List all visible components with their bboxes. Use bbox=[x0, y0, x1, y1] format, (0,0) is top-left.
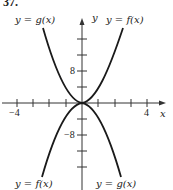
label-g-top-left: y = g(x) bbox=[15, 14, 55, 25]
graph bbox=[0, 0, 173, 190]
tick-label-x-4: 4 bbox=[144, 107, 149, 118]
label-y-axis: y bbox=[92, 12, 98, 23]
label-f-top-right: y = f(x) bbox=[106, 14, 144, 25]
y-axis-arrow-icon bbox=[80, 18, 85, 25]
label-f-bottom-left: y = f(x) bbox=[15, 178, 53, 189]
tick-label-y-neg8: −8 bbox=[64, 129, 75, 140]
label-x-axis: x bbox=[160, 108, 166, 119]
tick-label-y-8: 8 bbox=[70, 65, 75, 76]
x-axis-arrow-icon bbox=[159, 101, 166, 106]
tick-label-x-neg4: −4 bbox=[9, 107, 20, 118]
label-g-bottom-right: y = g(x) bbox=[96, 178, 136, 189]
